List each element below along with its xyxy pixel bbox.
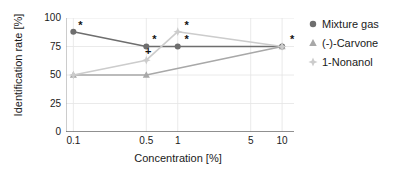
legend-item-label: 1-Nonanol bbox=[322, 56, 373, 68]
y-axis-tick-label: 0 bbox=[55, 127, 61, 137]
y-axis-tick-label: 100 bbox=[44, 13, 61, 23]
significance-annotation: * bbox=[185, 19, 189, 30]
y-axis-title: Identification rate [%] bbox=[12, 0, 24, 130]
y-axis-tick-label: 50 bbox=[50, 70, 61, 80]
chart-figure: Identification rate [%] 02550751000.10.5… bbox=[0, 0, 396, 174]
legend-item-label: (-)-Carvone bbox=[322, 37, 378, 49]
x-axis-tick-label: 10 bbox=[277, 136, 288, 146]
x-axis-tick-label: 1 bbox=[175, 136, 181, 146]
significance-annotation: + bbox=[145, 46, 151, 57]
y-axis-tick-label: 25 bbox=[50, 99, 61, 109]
data-point-marker bbox=[175, 43, 181, 49]
significance-annotation: * bbox=[152, 33, 156, 44]
significance-annotation: * bbox=[290, 33, 294, 44]
plot-area: 02550751000.10.51510**+*** bbox=[66, 18, 294, 132]
y-axis-tick-label: 75 bbox=[50, 42, 61, 52]
x-axis-title: Concentration [%] bbox=[66, 152, 290, 164]
x-axis-tick-label: 0.1 bbox=[66, 136, 80, 146]
x-axis-tick-label: 5 bbox=[248, 136, 254, 146]
data-point-marker bbox=[69, 71, 78, 80]
significance-annotation: * bbox=[185, 33, 189, 44]
legend-item[interactable]: 1-Nonanol bbox=[306, 52, 396, 71]
data-point-marker bbox=[70, 29, 76, 35]
legend-item[interactable]: Mixture gas bbox=[306, 14, 396, 33]
legend-marker-icon bbox=[306, 36, 322, 49]
legend-marker-icon bbox=[306, 17, 322, 30]
chart-canvas bbox=[66, 18, 294, 132]
legend-marker-icon bbox=[306, 55, 322, 68]
legend-item-label: Mixture gas bbox=[322, 18, 379, 30]
x-axis-tick-label: 0.5 bbox=[139, 136, 153, 146]
significance-annotation: * bbox=[78, 19, 82, 30]
data-point-marker bbox=[278, 42, 287, 51]
chart-legend: Mixture gas(-)-Carvone1-Nonanol bbox=[306, 14, 396, 71]
legend-item[interactable]: (-)-Carvone bbox=[306, 33, 396, 52]
